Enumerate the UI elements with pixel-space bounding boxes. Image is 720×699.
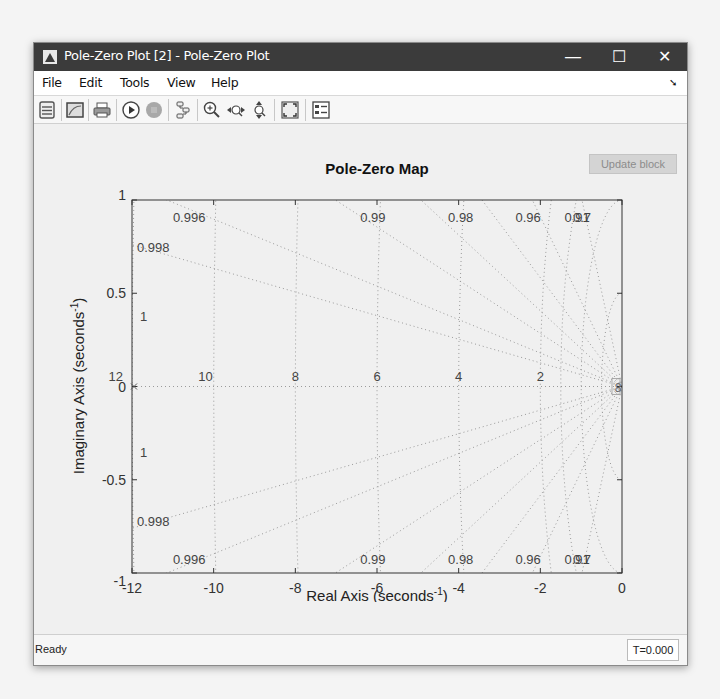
zoom-x-icon[interactable]: [226, 100, 246, 120]
svg-text:12: 12: [108, 369, 122, 384]
svg-text:-8: -8: [289, 580, 302, 596]
menu-view[interactable]: View: [167, 75, 195, 90]
fit-to-view-icon[interactable]: [280, 100, 300, 120]
svg-text:0.98: 0.98: [448, 552, 473, 567]
minimize-button[interactable]: —: [550, 43, 596, 71]
axis-ticks: -12-10-8-6-4-2010.50-0.5-1: [102, 187, 626, 596]
zoom-y-icon[interactable]: [249, 100, 269, 120]
svg-text:8: 8: [292, 369, 299, 384]
svg-text:0.99: 0.99: [360, 552, 385, 567]
svg-text:0.5: 0.5: [107, 285, 127, 301]
svg-text:0.7: 0.7: [573, 552, 591, 567]
svg-text:10: 10: [198, 369, 212, 384]
svg-text:0.99: 0.99: [360, 210, 385, 225]
menu-file[interactable]: File: [42, 75, 62, 90]
toolbar: [34, 96, 687, 124]
grid-labels: 0.9960.9960.990.990.980.980.960.960.910.…: [108, 210, 621, 567]
svg-text:-2: -2: [534, 580, 547, 596]
svg-text:-1: -1: [114, 573, 127, 589]
maximize-button[interactable]: ☐: [596, 43, 642, 71]
status-bar: Ready T=0.000: [34, 634, 687, 665]
plot-area: Update block Pole-Zero Map -12-10-8-6-4-…: [34, 124, 687, 602]
svg-text:-0.5: -0.5: [102, 472, 126, 488]
svg-text:0.996: 0.996: [173, 552, 206, 567]
x-axis-label: Real Axis (seconds-1): [306, 586, 447, 602]
svg-text:0.998: 0.998: [137, 514, 170, 529]
legend-icon[interactable]: [311, 100, 331, 120]
pole-zero-plot-window: Pole-Zero Plot [2] - Pole-Zero Plot — ☐ …: [33, 42, 688, 666]
svg-text:2: 2: [537, 369, 544, 384]
figure-icon[interactable]: [65, 100, 85, 120]
matlab-logo-icon: [43, 50, 57, 64]
pole-zero-chart[interactable]: Pole-Zero Map -12-10-8-6-4-2010.50-0.5-1…: [34, 124, 687, 602]
svg-text:-4: -4: [452, 580, 465, 596]
close-button[interactable]: ✕: [641, 43, 687, 71]
menu-tools[interactable]: Tools: [120, 75, 149, 90]
y-axis-label: Imaginary Axis (seconds-1): [69, 298, 87, 474]
chart-title: Pole-Zero Map: [325, 160, 428, 177]
svg-text:8: 8: [615, 381, 622, 395]
svg-text:0.998: 0.998: [137, 240, 170, 255]
svg-text:4: 4: [455, 369, 462, 384]
run-icon[interactable]: [121, 100, 141, 120]
menu-edit[interactable]: Edit: [79, 75, 102, 90]
highlight-block-icon[interactable]: [173, 100, 193, 120]
print-icon[interactable]: [92, 100, 112, 120]
zoom-in-icon[interactable]: [202, 100, 222, 120]
block-parameters-icon[interactable]: [37, 100, 57, 120]
svg-text:6: 6: [373, 369, 380, 384]
svg-text:0: 0: [618, 580, 626, 596]
svg-text:1: 1: [140, 445, 147, 460]
svg-text:0.96: 0.96: [515, 552, 540, 567]
svg-text:0.96: 0.96: [515, 210, 540, 225]
title-bar[interactable]: Pole-Zero Plot [2] - Pole-Zero Plot — ☐ …: [34, 43, 687, 71]
window-title: Pole-Zero Plot [2] - Pole-Zero Plot: [64, 48, 269, 63]
svg-text:1: 1: [118, 187, 126, 203]
status-text: Ready: [35, 643, 67, 655]
svg-text:0.996: 0.996: [173, 210, 206, 225]
simulation-time: T=0.000: [627, 639, 679, 661]
stop-icon[interactable]: [144, 100, 164, 120]
menu-help[interactable]: Help: [211, 75, 238, 90]
svg-text:1: 1: [140, 309, 147, 324]
menu-bar: File Edit Tools View Help ➘: [34, 71, 687, 96]
svg-text:0.98: 0.98: [448, 210, 473, 225]
svg-text:-10: -10: [204, 580, 224, 596]
dock-arrow-icon[interactable]: ➘: [669, 77, 677, 88]
svg-text:0.7: 0.7: [573, 210, 591, 225]
